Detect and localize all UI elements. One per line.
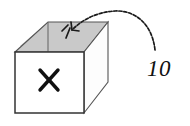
- arrow-value-label: 10: [147, 56, 171, 81]
- figure-container: 10: [0, 0, 190, 126]
- box-diagram: 10: [0, 0, 190, 126]
